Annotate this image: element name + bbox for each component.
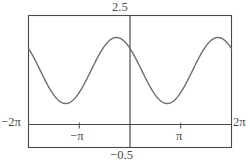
plot-area — [0, 0, 250, 163]
y-max-label: 2.5 — [112, 1, 128, 14]
x-tick-label-neg-pi: −π — [70, 130, 84, 143]
x-max-label: 2π — [233, 116, 246, 129]
x-min-label: −2π — [1, 116, 21, 129]
x-tick-label-pos-pi: π — [176, 130, 182, 143]
chart-figure: 2.5 −0.5 −2π 2π −π π — [0, 0, 250, 163]
y-min-label: −0.5 — [110, 149, 133, 162]
chart-background — [0, 0, 250, 163]
